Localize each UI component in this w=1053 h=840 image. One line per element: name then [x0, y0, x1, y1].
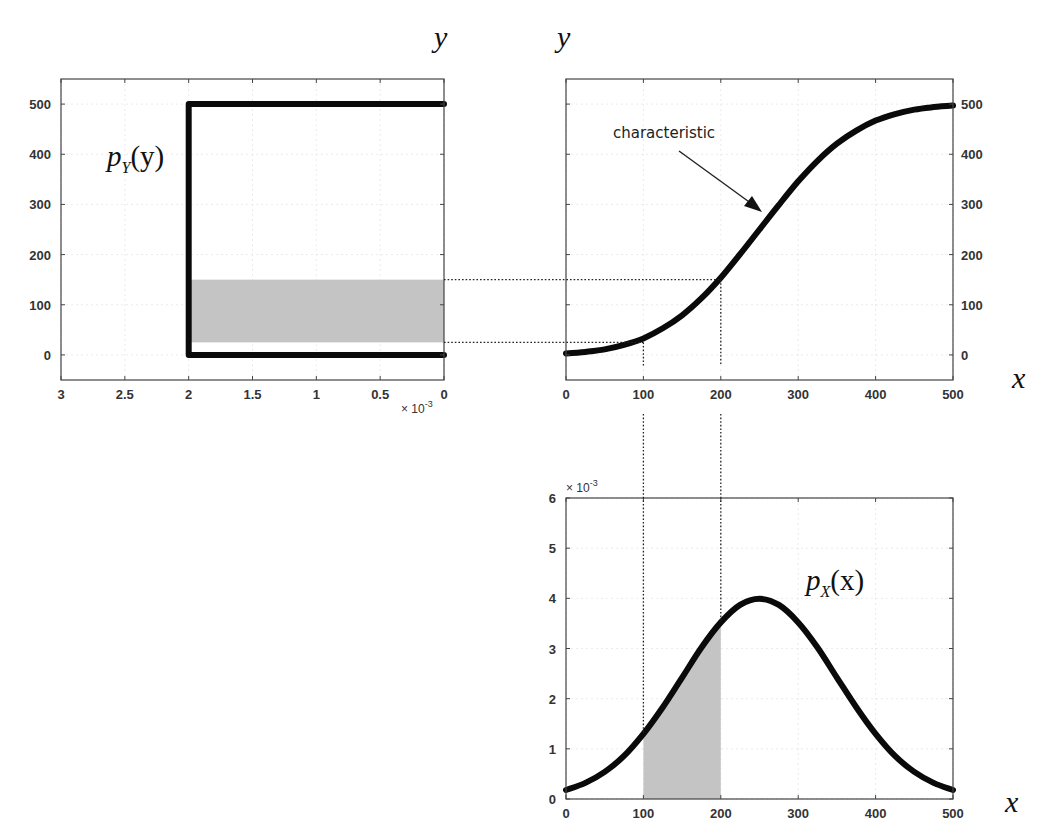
y-tick-label: 100 — [961, 298, 983, 313]
y-tick-label: 200 — [29, 248, 51, 263]
x-tick-label: 200 — [710, 806, 732, 821]
characteristic-plot-x-tick-labels: 0100200300400500 — [562, 387, 963, 402]
projection-guide-lines — [444, 280, 721, 734]
x-tick-label: 2 — [185, 387, 192, 402]
x-tick-label: 300 — [787, 806, 809, 821]
x-tick-label: 2.5 — [116, 387, 134, 402]
x-tick-label: 300 — [787, 387, 809, 402]
y-tick-label: 300 — [961, 197, 983, 212]
characteristic-plot: 0100200300400500 0100200300400500 charac… — [562, 79, 1026, 402]
bottom-plot-pX-curve — [566, 599, 953, 790]
x-tick-label: 500 — [942, 387, 964, 402]
x-tick-label: 100 — [633, 387, 655, 402]
y-tick-label: 200 — [961, 248, 983, 263]
y-tick-label: 6 — [549, 491, 556, 506]
bottom-plot-x-axis-title: x — [1004, 785, 1019, 818]
x-tick-label: 400 — [865, 387, 887, 402]
bottom-plot-y-tick-labels: 0123456 — [549, 491, 557, 807]
y-tick-label: 5 — [549, 541, 556, 556]
right-plot-y-axis-title: y — [554, 20, 571, 53]
figure-canvas: 32.521.510.50 0100200300400500 × 10-3 pY… — [0, 0, 1053, 840]
y-tick-label: 100 — [29, 298, 51, 313]
x-tick-label: 200 — [710, 387, 732, 402]
y-tick-label: 3 — [549, 642, 556, 657]
x-tick-label: 1 — [313, 387, 320, 402]
y-tick-label: 0 — [44, 348, 51, 363]
x-tick-label: 3 — [57, 387, 64, 402]
x-tick-label: 400 — [865, 806, 887, 821]
y-tick-label: 400 — [29, 147, 51, 162]
bottom-plot-x-tick-labels: 0100200300400500 — [562, 806, 963, 821]
bottom-plot-exponent-label: × 10-3 — [566, 478, 598, 495]
x-tick-label: 500 — [942, 806, 964, 821]
characteristic-annotation: characteristic — [613, 124, 715, 142]
y-tick-label: 300 — [29, 197, 51, 212]
y-tick-label: 0 — [961, 348, 968, 363]
x-tick-label: 0 — [562, 806, 569, 821]
characteristic-curve — [566, 106, 953, 354]
left-plot-exponent-label: × 10-3 — [401, 399, 433, 416]
bottom-plot-pX-label: pX(x) — [804, 564, 864, 600]
x-tick-label: 0 — [562, 387, 569, 402]
x-tick-label: 100 — [633, 806, 655, 821]
left-plot-pY-label: pY(y) — [105, 140, 164, 176]
x-tick-label: 0 — [440, 387, 447, 402]
y-tick-label: 500 — [29, 97, 51, 112]
y-tick-label: 4 — [549, 591, 557, 606]
y-tick-label: 1 — [549, 742, 556, 757]
left-plot-y-tick-labels: 0100200300400500 — [29, 97, 51, 363]
y-tick-label: 0 — [549, 792, 556, 807]
bottom-plot-pX: 0100200300400500 0123456 × 10-3 pX(x) x — [549, 478, 1019, 821]
x-tick-label: 0.5 — [371, 387, 389, 402]
characteristic-plot-x-axis-title: x — [1011, 361, 1026, 394]
characteristic-plot-y-tick-labels: 0100200300400500 — [961, 97, 983, 363]
left-plot-shaded-band — [189, 280, 444, 343]
left-plot-x-tick-labels: 32.521.510.50 — [57, 387, 447, 402]
x-tick-label: 1.5 — [243, 387, 261, 402]
y-tick-label: 400 — [961, 147, 983, 162]
left-plot-pY: 32.521.510.50 0100200300400500 × 10-3 pY… — [29, 79, 447, 416]
y-tick-label: 2 — [549, 692, 556, 707]
left-plot-y-axis-title: y — [431, 20, 448, 53]
y-tick-label: 500 — [961, 97, 983, 112]
